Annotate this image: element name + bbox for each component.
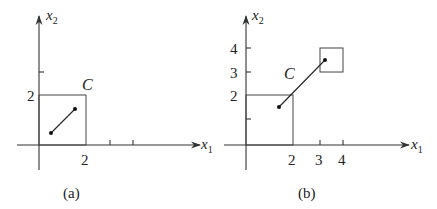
point: [323, 58, 327, 62]
x-tick-label-2: 2: [81, 152, 89, 168]
segment: [51, 109, 75, 133]
caption-b: (b): [298, 185, 316, 202]
set-label-c: C: [82, 76, 93, 93]
x2-axis-label: x2: [251, 7, 264, 26]
caption-a: (a): [63, 185, 80, 202]
panel-a: 2 2 C x2 x1 (a): [17, 7, 213, 202]
x2-axis-label: x2: [45, 7, 58, 26]
set-c-square: [39, 95, 86, 145]
x-tick-label-2: 2: [288, 152, 296, 168]
figure: 2 2 C x2 x1 (a) 2 3 4 2 3 4 C x2 x1 (b): [0, 0, 437, 209]
y-tick-label-4: 4: [230, 41, 238, 57]
y-tick-label-2: 2: [230, 88, 238, 104]
x-tick-label-4: 4: [338, 152, 346, 168]
x1-axis-label: x1: [410, 136, 423, 155]
y-tick-label-2: 2: [27, 88, 35, 104]
point: [49, 131, 53, 135]
point: [73, 107, 77, 111]
set-label-c: C: [284, 65, 295, 82]
y-tick-label-3: 3: [230, 65, 238, 81]
set-c-square-large: [246, 95, 293, 145]
x1-axis-label: x1: [200, 136, 213, 155]
x-tick-label-3: 3: [315, 152, 323, 168]
panel-b: 2 3 4 2 3 4 C x2 x1 (b): [224, 7, 423, 202]
point: [277, 105, 281, 109]
